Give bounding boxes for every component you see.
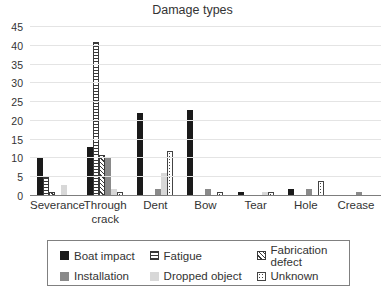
y-axis: 051015202530354045 <box>0 27 26 196</box>
legend-item: Fatigue <box>150 244 257 268</box>
x-category-label: Through crack <box>80 199 130 227</box>
legend-swatch-icon <box>150 272 159 281</box>
gridline <box>30 139 381 140</box>
y-tick-label: 20 <box>11 115 23 127</box>
y-tick-label: 10 <box>11 152 23 164</box>
gridline <box>30 176 381 177</box>
bar-group <box>80 27 130 196</box>
gridline <box>30 26 381 27</box>
legend-item: Unknown <box>257 270 349 282</box>
legend-swatch-icon <box>60 251 69 260</box>
bar-group <box>281 27 331 196</box>
x-category-label: Crease <box>331 199 381 227</box>
x-category-label: Severance <box>30 199 80 227</box>
legend-item: Fabrication defect <box>257 244 349 268</box>
y-tick-label: 45 <box>11 21 23 33</box>
legend-label: Boat impact <box>74 250 135 262</box>
x-category-label: Dent <box>130 199 180 227</box>
y-tick-label: 40 <box>11 40 23 52</box>
bar-group <box>331 27 381 196</box>
y-tick-label: 5 <box>17 171 23 183</box>
legend-item: Dropped object <box>150 270 257 282</box>
bar <box>137 113 143 196</box>
gridline <box>30 45 381 46</box>
y-tick-label: 15 <box>11 134 23 146</box>
chart-title: Damage types <box>0 3 385 17</box>
gridline <box>30 157 381 158</box>
legend-label: Fatigue <box>164 250 202 262</box>
bar-group <box>130 27 180 196</box>
legend-swatch-icon <box>150 251 159 260</box>
plot-area <box>30 27 381 196</box>
legend-label: Unknown <box>271 270 319 282</box>
y-tick-label: 30 <box>11 77 23 89</box>
gridline <box>30 82 381 83</box>
bar <box>318 181 324 196</box>
x-category-label: Hole <box>281 199 331 227</box>
legend-swatch-icon <box>257 251 266 260</box>
y-tick-label: 25 <box>11 96 23 108</box>
x-axis: SeveranceThrough crackDentBowTearHoleCre… <box>30 199 381 227</box>
legend: Boat impactFatigueFabrication defectInst… <box>47 240 350 286</box>
legend-swatch-icon <box>257 272 266 281</box>
legend-swatch-icon <box>60 272 69 281</box>
bars-region <box>30 27 381 196</box>
legend-label: Fabrication defect <box>271 244 349 268</box>
y-tick-label: 0 <box>17 190 23 202</box>
x-category-label: Tear <box>231 199 281 227</box>
damage-types-chart: Damage types 051015202530354045 Severanc… <box>0 0 385 301</box>
legend-item: Boat impact <box>60 244 150 268</box>
x-category-label: Bow <box>180 199 230 227</box>
legend-label: Dropped object <box>164 270 242 282</box>
y-tick-label: 35 <box>11 59 23 71</box>
legend-label: Installation <box>74 270 129 282</box>
gridline <box>30 120 381 121</box>
legend-item: Installation <box>60 270 150 282</box>
bar-group <box>30 27 80 196</box>
gridline <box>30 101 381 102</box>
bar <box>187 110 193 196</box>
x-axis-baseline <box>30 195 381 196</box>
bar-group <box>180 27 230 196</box>
gridline <box>30 64 381 65</box>
bar-group <box>231 27 281 196</box>
